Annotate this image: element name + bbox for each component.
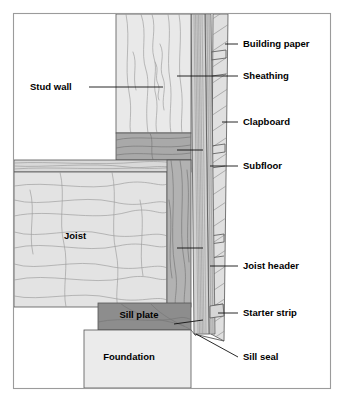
label-sill-plate: Sill plate xyxy=(119,309,158,320)
joist-header-region xyxy=(167,160,191,307)
label-foundation: Foundation xyxy=(103,351,155,362)
top-plate-region xyxy=(116,133,191,160)
joist-region xyxy=(14,172,167,307)
joist-body xyxy=(14,172,167,307)
label-subfloor: Subfloor xyxy=(243,160,282,171)
label-building-paper: Building paper xyxy=(243,38,310,49)
starter-strip-body xyxy=(210,304,224,318)
starter-strip xyxy=(210,304,224,318)
diagram-canvas: Building paper Sheathing Clapboard Subfl… xyxy=(0,0,344,402)
label-sill-seal: Sill seal xyxy=(243,351,278,362)
label-joist: Joist xyxy=(64,230,87,241)
label-clapboard: Clapboard xyxy=(243,116,290,127)
subfloor-region xyxy=(14,160,191,172)
label-starter-strip: Starter strip xyxy=(243,307,297,318)
wall-section-diagram: Building paper Sheathing Clapboard Subfl… xyxy=(0,0,344,402)
label-stud-wall: Stud wall xyxy=(30,81,72,92)
stud-wall-region xyxy=(116,14,191,133)
label-sheathing: Sheathing xyxy=(243,70,289,81)
label-joist-header: Joist header xyxy=(243,260,299,271)
